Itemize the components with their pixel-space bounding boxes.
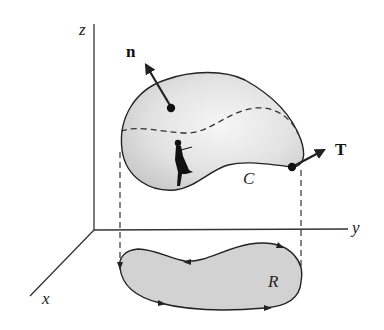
y-axis: [94, 229, 348, 230]
surface-shape: [121, 73, 303, 191]
region-r: R: [117, 242, 302, 311]
normal-vector-label: n: [126, 42, 136, 61]
y-axis-label: y: [350, 218, 360, 237]
region-arrow-topright: [276, 242, 284, 248]
curve-c-label: C: [243, 169, 255, 188]
region-r-label: R: [267, 272, 279, 291]
z-axis-label: z: [78, 20, 86, 39]
tangent-base-point: [288, 163, 296, 171]
surface: [121, 73, 304, 191]
stokes-diagram: z y x n T C R: [0, 0, 384, 330]
tangent-vector-label: T: [335, 140, 347, 159]
x-axis: [30, 230, 94, 296]
x-axis-label: x: [41, 289, 50, 308]
normal-base-point: [167, 104, 175, 112]
